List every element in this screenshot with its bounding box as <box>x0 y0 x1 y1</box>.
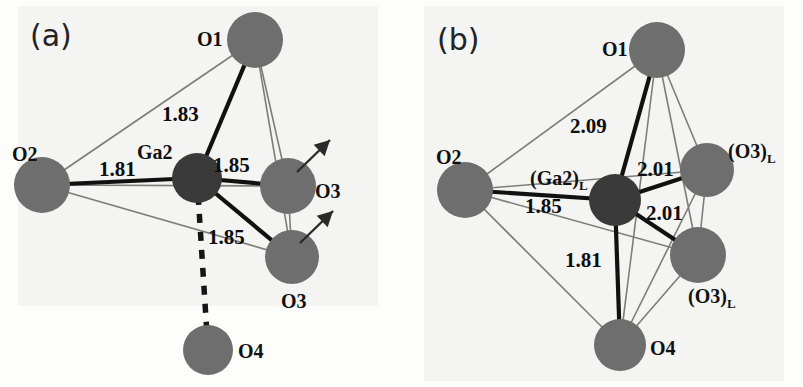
atom-label-O1: O1 <box>197 28 223 51</box>
distance-label-Ga2L-O1: 2.09 <box>570 114 607 139</box>
atom-label-O3L-lower: (O3)L <box>688 285 736 312</box>
atom-label-O1: O1 <box>602 38 628 61</box>
atom-label-O4: O4 <box>238 340 264 363</box>
atom-O2[interactable] <box>437 162 493 218</box>
panel-b-bonds <box>465 50 707 345</box>
atom-O3-upper[interactable] <box>260 158 316 214</box>
edge-O2-O3-lower <box>42 185 292 257</box>
distance-label-Ga2L-O3L-upper: 2.01 <box>637 157 674 182</box>
atom-label-Ga2: Ga2 <box>137 141 173 164</box>
distance-label-Ga2L-O4: 1.81 <box>565 248 602 273</box>
atom-O3-lower[interactable] <box>265 230 319 284</box>
edge-O1-O3-lower <box>255 40 292 257</box>
atom-label-O3L-upper: (O3)L <box>728 140 776 167</box>
displacement-arrow-o3-upper <box>297 140 330 172</box>
distance-label-Ga2L-O2: 1.85 <box>525 194 562 219</box>
atom-O1[interactable] <box>629 22 685 78</box>
atom-label-O3-lower: O3 <box>281 290 307 313</box>
atom-label-Ga2L: (Ga2)L <box>530 167 588 194</box>
panel-tag-a: (a) <box>30 18 72 53</box>
bond-Ga2-O4 <box>197 178 208 350</box>
distance-label-Ga2L-O3L-lower: 2.01 <box>646 201 683 226</box>
structure-drawing <box>0 0 803 387</box>
atom-O4[interactable] <box>594 319 646 371</box>
atom-label-O4: O4 <box>650 337 676 360</box>
atom-label-subscript: L <box>727 296 736 311</box>
panel-a-atoms <box>14 12 319 375</box>
atom-label-subscript: L <box>767 151 776 166</box>
atom-O4[interactable] <box>183 325 233 375</box>
atom-O1[interactable] <box>227 12 283 68</box>
atom-label-O2: O2 <box>12 143 38 166</box>
distance-label-Ga2-O3-upper: 1.85 <box>213 153 250 178</box>
atom-label-subscript: L <box>579 178 588 193</box>
structure-figure: (a)O1O2O3O3O4Ga21.831.811.851.85(b)O1O2(… <box>0 0 803 387</box>
distance-label-Ga2-O3-lower: 1.85 <box>208 225 245 250</box>
atom-label-O3-upper: O3 <box>315 180 341 203</box>
distance-label-Ga2-O1: 1.83 <box>162 102 199 127</box>
atom-O3L-lower[interactable] <box>670 227 726 283</box>
displacement-arrow-o3-lower <box>300 211 333 243</box>
distance-label-Ga2-O2: 1.81 <box>99 157 136 182</box>
atom-O3L-upper[interactable] <box>680 143 734 197</box>
atom-label-O2: O2 <box>436 146 462 169</box>
panel-tag-b: (b) <box>437 22 479 57</box>
atom-Ga2L[interactable] <box>589 174 641 226</box>
